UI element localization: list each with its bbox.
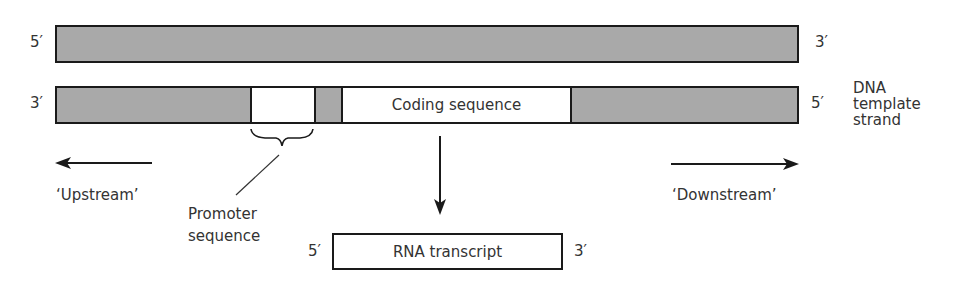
rna-5prime-label: 5′ <box>308 243 321 260</box>
upstream-label: ‘Upstream’ <box>56 187 139 204</box>
rna-3prime-label: 3′ <box>574 243 587 260</box>
transcription-arrow-icon <box>434 136 446 215</box>
promoter-sequence-label-line2: sequence <box>188 228 260 245</box>
rna-transcript-label: RNA transcript <box>393 243 502 261</box>
promoter-leader-line <box>236 155 279 195</box>
rna-transcript-box: RNA transcript <box>332 233 563 270</box>
upstream-arrow-icon <box>55 157 152 169</box>
promoter-brace-icon <box>251 129 313 146</box>
downstream-label: ‘Downstream’ <box>672 187 777 204</box>
promoter-sequence-label-line1: Promoter <box>188 206 257 223</box>
downstream-arrow-icon <box>671 158 799 170</box>
